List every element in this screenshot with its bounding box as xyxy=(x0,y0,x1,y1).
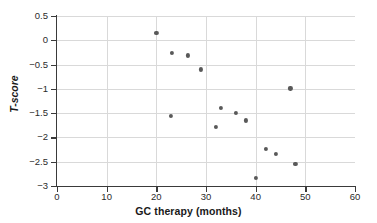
x-axis-tick-label-text: 10 xyxy=(92,192,122,202)
y-axis-title-text: T-score xyxy=(8,75,20,112)
x-axis-tick-label: 50 xyxy=(290,192,320,204)
y-axis-tick-label-text: −2 xyxy=(37,132,48,142)
y-axis-tick xyxy=(51,65,56,66)
x-axis-tick-label-text: 40 xyxy=(241,192,271,202)
y-axis-tick-label: −2.5 xyxy=(0,157,48,167)
gridline-vertical xyxy=(107,16,108,186)
x-axis-tick-label-text: 0 xyxy=(42,192,72,202)
y-axis-tick-label-text: −1.5 xyxy=(29,108,48,118)
data-point xyxy=(264,147,268,151)
data-point xyxy=(214,125,218,129)
y-axis-tick-label-text: −3 xyxy=(37,181,48,191)
x-axis-tick-label: 0 xyxy=(42,192,72,204)
y-axis-line xyxy=(56,15,57,187)
y-axis-tick-label: −1 xyxy=(0,84,48,94)
data-point xyxy=(254,176,258,180)
x-axis-title: GC therapy (months) xyxy=(0,205,377,217)
y-axis-tick-label: 0.5 xyxy=(0,11,48,21)
data-point xyxy=(244,118,248,122)
gridline-vertical xyxy=(206,16,207,186)
gridline-vertical xyxy=(156,16,157,186)
data-point xyxy=(169,114,173,118)
gridline-vertical xyxy=(305,16,306,186)
y-axis-tick-label-text: 0 xyxy=(43,35,48,45)
y-axis-tick-label: −3 xyxy=(0,181,48,191)
y-axis-tick xyxy=(51,137,56,138)
y-axis-tick xyxy=(51,162,56,163)
y-axis-tick-label: −1.5 xyxy=(0,108,48,118)
data-point xyxy=(219,106,223,110)
x-axis-tick-label: 60 xyxy=(340,192,370,204)
y-axis-tick xyxy=(51,16,56,17)
y-axis-tick-label-text: 0.5 xyxy=(35,11,48,21)
x-axis-tick-label: 40 xyxy=(241,192,271,204)
scatter-chart-figure: T-score GC therapy (months) 0.50−0.5−1−1… xyxy=(0,0,377,223)
x-axis-tick-label: 30 xyxy=(191,192,221,204)
data-point xyxy=(273,152,277,156)
data-point xyxy=(170,51,174,55)
y-axis-tick xyxy=(51,40,56,41)
data-point xyxy=(293,162,297,166)
plot-area xyxy=(57,16,355,186)
x-axis-tick-label: 20 xyxy=(141,192,171,204)
x-axis-tick-label-text: 50 xyxy=(290,192,320,202)
y-axis-tick-label: −2 xyxy=(0,132,48,142)
data-point xyxy=(186,53,190,57)
y-axis-tick xyxy=(51,89,56,90)
data-point xyxy=(154,31,158,35)
x-axis-tick-label-text: 20 xyxy=(141,192,171,202)
y-axis-tick-label: 0 xyxy=(0,35,48,45)
y-axis-tick-label-text: −1 xyxy=(37,84,48,94)
y-axis-tick xyxy=(51,186,56,187)
y-axis-tick-label: −0.5 xyxy=(0,60,48,70)
data-point xyxy=(199,67,203,71)
x-axis-tick-label-text: 30 xyxy=(191,192,221,202)
y-axis-tick-label-text: −2.5 xyxy=(29,157,48,167)
y-axis-tick xyxy=(51,113,56,114)
x-axis-tick-label-text: 60 xyxy=(340,192,370,202)
y-axis-tick-label-text: −0.5 xyxy=(29,60,48,70)
gridline-vertical xyxy=(256,16,257,186)
x-axis-tick-label: 10 xyxy=(92,192,122,204)
